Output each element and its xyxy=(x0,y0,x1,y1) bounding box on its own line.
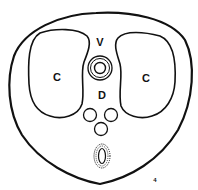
small-circle-left xyxy=(84,109,97,122)
label-d: D xyxy=(98,89,106,101)
dotted-oval xyxy=(94,144,110,168)
cross-section-diagram: C C V D 4 xyxy=(0,0,198,190)
label-right-lobe: C xyxy=(142,72,150,84)
label-corner-mark: 4 xyxy=(153,177,157,183)
small-circle-right xyxy=(105,109,118,122)
label-left-lobe: C xyxy=(53,71,61,83)
small-circle-bottom xyxy=(95,123,108,136)
label-v: V xyxy=(96,36,104,48)
concentric-ring xyxy=(88,56,112,80)
